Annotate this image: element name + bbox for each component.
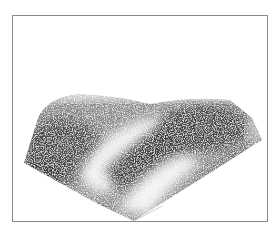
- density-image: [0, 0, 280, 234]
